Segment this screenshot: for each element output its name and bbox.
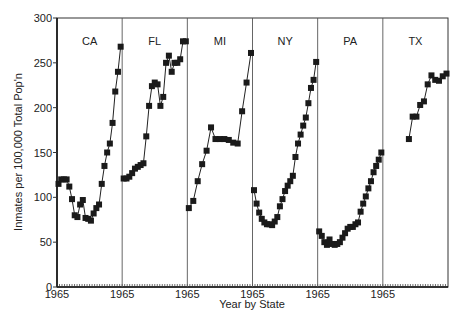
x-tick-label: 1965 <box>175 288 199 300</box>
y-tick-label: 150 <box>34 147 52 159</box>
x-tick-label: 1965 <box>110 288 134 300</box>
data-point <box>311 77 317 83</box>
data-point <box>248 50 254 56</box>
data-point <box>287 178 293 184</box>
y-tick-label: 50 <box>40 236 52 248</box>
data-point <box>406 136 412 142</box>
data-point <box>413 114 419 120</box>
y-tick-label: 300 <box>34 12 52 24</box>
x-axis-label: Year by State <box>219 298 285 310</box>
data-point <box>163 60 169 66</box>
data-point <box>157 103 163 109</box>
data-point <box>425 81 431 87</box>
data-point <box>146 103 152 109</box>
data-point <box>254 201 260 207</box>
panel-label: TX <box>408 35 423 47</box>
data-point <box>378 150 384 156</box>
data-point <box>112 89 118 95</box>
data-point <box>74 214 80 220</box>
x-axis: 196519651965196519651965 <box>45 18 446 300</box>
data-point <box>69 196 75 202</box>
data-point <box>355 219 361 225</box>
data-point <box>118 44 124 50</box>
data-point <box>160 94 166 100</box>
y-tick-label: 200 <box>34 102 52 114</box>
x-tick-label: 1965 <box>371 288 395 300</box>
panel-pa: PA <box>316 35 384 248</box>
data-point <box>300 123 306 129</box>
data-point <box>376 157 382 163</box>
data-point <box>239 108 245 114</box>
y-axis-label: Inmates per 100,000 Total Pop'n <box>12 73 24 231</box>
data-point <box>99 181 105 187</box>
data-point <box>66 184 72 190</box>
data-point <box>204 148 210 154</box>
data-point <box>155 81 161 87</box>
chart: 050100150200250300 196519651965196519651… <box>0 0 460 326</box>
data-point <box>277 203 283 209</box>
series-line <box>189 53 251 208</box>
data-point <box>104 150 110 156</box>
data-point <box>368 178 374 184</box>
data-point <box>292 154 298 160</box>
data-point <box>115 69 121 75</box>
series-line <box>59 47 121 221</box>
data-point <box>324 242 330 248</box>
data-point <box>190 198 196 204</box>
data-point <box>169 69 175 75</box>
data-point <box>91 210 97 216</box>
panel-label: MI <box>214 35 226 47</box>
data-point <box>199 161 205 167</box>
data-point <box>186 205 192 211</box>
data-point <box>88 218 94 224</box>
y-tick-label: 100 <box>34 191 52 203</box>
data-point <box>107 141 113 147</box>
panel-label: PA <box>343 35 358 47</box>
panel-ca: CA <box>56 35 124 224</box>
data-point <box>140 160 146 166</box>
data-point <box>235 141 241 147</box>
data-point <box>313 59 319 65</box>
data-point <box>303 115 309 121</box>
panel-label: CA <box>82 35 98 47</box>
data-point <box>166 53 172 59</box>
panel-ny: NY <box>251 35 319 228</box>
data-point <box>244 80 250 86</box>
panel-label: NY <box>277 35 293 47</box>
data-point <box>308 85 314 91</box>
data-point <box>195 178 201 184</box>
data-point <box>143 133 149 139</box>
data-point <box>282 188 288 194</box>
data-point <box>305 100 311 106</box>
data-point <box>101 163 107 169</box>
panel-tx: TX <box>406 35 450 142</box>
data-point <box>64 176 70 182</box>
data-point <box>319 233 325 239</box>
data-point <box>444 71 450 77</box>
data-point <box>251 187 257 193</box>
data-point <box>373 163 379 169</box>
data-point <box>371 169 377 175</box>
data-point <box>298 132 304 138</box>
y-tick-label: 250 <box>34 57 52 69</box>
data-point <box>363 193 369 199</box>
data-point <box>183 38 189 44</box>
data-point <box>290 173 296 179</box>
data-point <box>295 141 301 147</box>
data-point <box>274 214 280 220</box>
data-point <box>96 202 102 208</box>
panel-mi: MI <box>186 35 254 211</box>
x-tick-label: 1965 <box>305 288 329 300</box>
data-point <box>360 201 366 207</box>
data-point <box>421 98 427 104</box>
data-point <box>110 120 116 126</box>
data-point <box>256 210 262 216</box>
y-axis: 050100150200250300 <box>34 12 57 293</box>
data-point <box>365 185 371 191</box>
data-point <box>358 209 364 215</box>
panel-fl: FL <box>121 35 189 182</box>
data-point <box>279 196 285 202</box>
x-tick-label: 1965 <box>45 288 69 300</box>
data-point <box>208 124 214 130</box>
data-point <box>80 197 86 203</box>
